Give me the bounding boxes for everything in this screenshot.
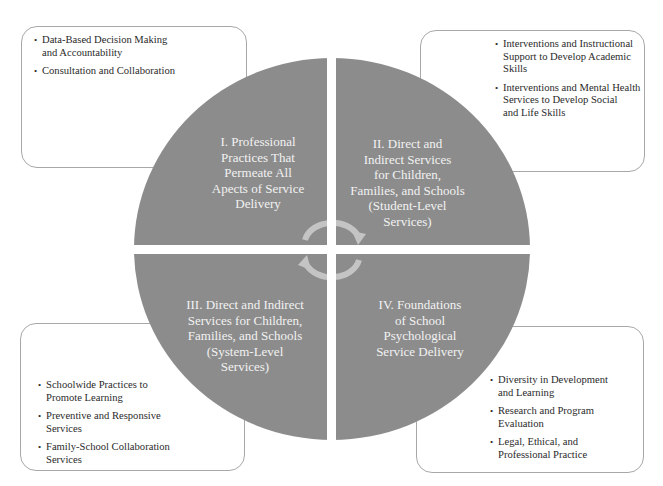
label-line: Service Delivery: [360, 344, 480, 360]
quadrant-iii-label: III. Direct and Indirect Services for Ch…: [170, 297, 320, 375]
label-line: Permeate All: [193, 165, 323, 181]
label-line: for Children,: [340, 167, 475, 183]
label-line: Families, and Schools: [170, 328, 320, 344]
label-line: Indirect Services: [340, 152, 475, 168]
label-line: Psychological: [360, 328, 480, 344]
label-line: of School: [360, 313, 480, 329]
label-line: Services for Children,: [170, 313, 320, 329]
quadrant-iv-label: IV. Foundations of School Psychological …: [360, 297, 480, 359]
label-line: II. Direct and: [340, 136, 475, 152]
label-line: Delivery: [193, 196, 323, 212]
label-line: Services): [170, 359, 320, 375]
label-line: I. Professional: [193, 134, 323, 150]
label-line: (System-Level: [170, 344, 320, 360]
quadrant-ii-label: II. Direct and Indirect Services for Chi…: [340, 136, 475, 229]
quadrant-i-label: I. Professional Practices That Permeate …: [193, 134, 323, 212]
label-line: Apects of Service: [193, 181, 323, 197]
label-line: III. Direct and Indirect: [170, 297, 320, 313]
horizontal-divider: [130, 245, 536, 254]
label-line: Practices That: [193, 150, 323, 166]
label-line: Families, and Schools: [340, 183, 475, 199]
label-line: Services): [340, 214, 475, 230]
quadrant-circle: [0, 0, 663, 486]
label-line: (Student-Level: [340, 198, 475, 214]
label-line: IV. Foundations: [360, 297, 480, 313]
